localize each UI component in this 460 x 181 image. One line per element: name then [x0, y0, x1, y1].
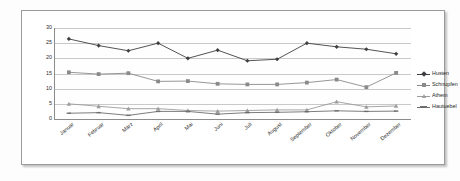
chart-frame: 051015202530 JanuarFebruarMärzAprilMaiJu…: [21, 10, 445, 165]
series-line: [69, 39, 396, 61]
data-point-marker: [186, 79, 190, 83]
data-point-marker: [67, 37, 71, 41]
data-point-marker: [305, 111, 309, 112]
data-point-marker: [335, 78, 339, 82]
legend-item-schnupfen[interactable]: Schnupfen: [417, 80, 460, 90]
data-point-marker: [245, 59, 249, 63]
data-point-marker: [394, 71, 398, 75]
series-line: [69, 72, 396, 87]
data-point-marker: [97, 72, 101, 76]
y-tick-label: 25: [30, 40, 52, 45]
data-point-marker: [126, 71, 130, 75]
data-point-marker: [275, 112, 279, 113]
series-schnupfen: [67, 70, 398, 89]
data-point-marker: [97, 43, 101, 47]
data-point-marker: [67, 70, 71, 74]
y-tick-label: 30: [30, 25, 52, 30]
triangle-marker-icon: [417, 92, 430, 101]
data-point-marker: [394, 52, 398, 56]
legend-label: Schnupfen: [432, 82, 458, 87]
data-point-marker: [156, 41, 160, 45]
data-point-marker: [216, 82, 220, 86]
data-point-marker: [364, 85, 368, 89]
data-point-marker: [126, 115, 130, 116]
data-point-marker: [335, 45, 339, 49]
data-point-marker: [156, 111, 160, 112]
series-line: [69, 102, 396, 111]
square-marker-icon: [417, 81, 430, 90]
data-point-marker: [186, 56, 190, 60]
data-point-marker: [275, 83, 279, 87]
dash-marker-icon: [417, 103, 430, 112]
data-point-marker: [334, 110, 338, 111]
data-point-marker: [186, 111, 190, 112]
legend-label: Husten: [432, 71, 449, 76]
chart-legend: HustenSchnupfenAthemHautuebel: [417, 69, 460, 113]
legend-item-athem[interactable]: Athem: [417, 91, 460, 101]
x-axis-ticks: JanuarFebruarMärzAprilMaiJuniJuliAugustS…: [22, 121, 422, 161]
series-line: [69, 111, 396, 116]
legend-item-husten[interactable]: Husten: [417, 69, 460, 79]
data-point-marker: [275, 57, 279, 61]
data-point-marker: [364, 111, 368, 112]
legend-label: Athem: [432, 93, 448, 98]
data-point-marker: [364, 47, 368, 51]
data-point-marker: [215, 113, 219, 114]
chart-figure: 051015202530 JanuarFebruarMärzAprilMaiJu…: [0, 0, 460, 181]
data-point-marker: [156, 79, 160, 83]
diamond-marker-icon: [417, 70, 430, 79]
data-point-marker: [67, 113, 71, 114]
gridline: [54, 119, 411, 120]
data-point-marker: [245, 83, 249, 87]
legend-label: Hautuebel: [432, 104, 457, 109]
y-tick-label: 20: [30, 56, 52, 61]
y-axis-ticks: 051015202530: [22, 28, 52, 119]
y-tick-label: 10: [30, 86, 52, 91]
data-point-marker: [216, 48, 220, 52]
data-point-marker: [305, 81, 309, 85]
legend-item-hautuebel[interactable]: Hautuebel: [417, 102, 460, 112]
y-tick-label: 5: [30, 101, 52, 106]
data-point-marker: [245, 112, 249, 113]
data-point-marker: [305, 41, 309, 45]
data-series-layer: [54, 28, 411, 119]
series-husten: [67, 37, 398, 63]
data-point-marker: [126, 49, 130, 53]
y-tick-label: 15: [30, 71, 52, 76]
data-point-marker: [96, 112, 100, 113]
data-point-marker: [394, 110, 398, 111]
